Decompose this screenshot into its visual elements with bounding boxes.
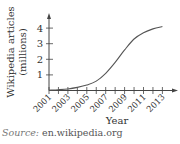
- y-axis-arrow-icon: [47, 13, 51, 19]
- x-axis-arrow-icon: [172, 89, 178, 93]
- x-axis-label: Year: [105, 115, 129, 126]
- x-tick-label: 2007: [88, 92, 110, 114]
- source-note: Source: en.wikipedia.org: [2, 127, 123, 138]
- x-tick-label: 2005: [69, 92, 91, 114]
- x-tick-label: 2003: [50, 92, 72, 114]
- y-ticks: 1234: [37, 23, 53, 81]
- x-tick-label: 2013: [144, 92, 166, 114]
- source-label: Source:: [2, 127, 39, 138]
- axes: [47, 13, 178, 93]
- y-tick-label: 3: [37, 38, 43, 49]
- x-ticks: 2001200320052007200920112013: [31, 87, 167, 114]
- y-tick-label: 2: [37, 54, 43, 65]
- y-axis-label-units: (millions): [17, 28, 28, 76]
- y-tick-label: 4: [37, 23, 43, 34]
- data-line: [49, 27, 162, 91]
- chart: 1234 2001200320052007200920112013 Wikipe…: [0, 0, 180, 130]
- x-tick-label: 2011: [126, 92, 148, 114]
- y-axis-label: Wikipedia articles: [5, 6, 16, 97]
- x-tick-label: 2009: [107, 92, 129, 114]
- y-tick-label: 1: [37, 69, 43, 80]
- x-tick-label: 2001: [31, 92, 53, 114]
- source-text: en.wikipedia.org: [42, 127, 123, 138]
